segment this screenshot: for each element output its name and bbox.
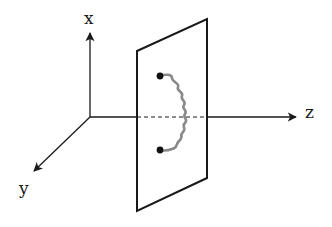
dot-bottom <box>157 147 164 154</box>
x-axis-label: x <box>84 10 94 27</box>
y-axis-label: y <box>19 180 29 197</box>
plane <box>137 19 207 211</box>
dot-top <box>157 73 164 80</box>
spring <box>160 75 186 151</box>
y-axis <box>34 117 90 171</box>
coordinate-diagram <box>0 0 332 227</box>
z-axis-label: z <box>305 104 314 121</box>
